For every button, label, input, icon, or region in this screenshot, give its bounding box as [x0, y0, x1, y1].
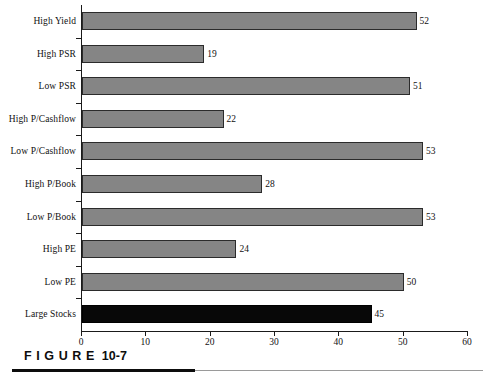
bar-value-label: 22 [227, 114, 237, 124]
bar-row: Low P/Cashflow53 [0, 135, 483, 167]
bar-row: High PE24 [0, 233, 483, 265]
x-axis-tick-label: 0 [79, 337, 84, 347]
category-label: Low PE [0, 277, 76, 287]
category-label: Large Stocks [0, 309, 76, 319]
caption-rule-thick [12, 369, 195, 372]
category-label: High P/Book [0, 179, 76, 189]
y-axis-tick [76, 70, 82, 71]
bar-row: Low PSR51 [0, 70, 483, 102]
bar-value-label: 52 [420, 16, 430, 26]
category-label: Low P/Cashflow [0, 146, 76, 156]
y-axis-tick [76, 233, 82, 234]
bar-value-label: 53 [426, 212, 436, 222]
bar [82, 208, 423, 226]
x-axis-tick [467, 331, 468, 336]
category-label: High Yield [0, 16, 76, 26]
figure-caption-text: FIGURE10-7 [24, 349, 127, 363]
y-axis-tick [76, 201, 82, 202]
bar [82, 110, 224, 128]
caption-rule-thin [195, 370, 483, 371]
y-axis-tick [76, 168, 82, 169]
bar [82, 240, 236, 258]
bar-value-label: 45 [375, 309, 385, 319]
bar-row: High P/Book28 [0, 168, 483, 200]
x-axis-tick-label: 30 [269, 337, 279, 347]
bar-value-label: 51 [413, 81, 423, 91]
bar-row: Low PE50 [0, 266, 483, 298]
x-axis-tick [145, 331, 146, 336]
bar-value-label: 28 [265, 179, 275, 189]
bar-value-label: 19 [207, 49, 217, 59]
x-axis-tick-label: 40 [334, 337, 344, 347]
category-label: High P/Cashflow [0, 114, 76, 124]
figure-caption: FIGURE10-7 [0, 349, 483, 379]
bar-chart: High Yield52High PSR19Low PSR51High P/Ca… [0, 0, 483, 345]
x-axis-tick-label: 20 [205, 337, 215, 347]
bar [82, 305, 372, 323]
bar-row: High Yield52 [0, 5, 483, 37]
bar-value-label: 24 [239, 244, 249, 254]
bar [82, 273, 404, 291]
x-axis-tick [338, 331, 339, 336]
y-axis-tick [76, 103, 82, 104]
category-label: Low P/Book [0, 212, 76, 222]
bar-row: High P/Cashflow22 [0, 103, 483, 135]
bar-value-label: 50 [407, 277, 417, 287]
y-axis-tick [76, 135, 82, 136]
bar-row: Low P/Book53 [0, 201, 483, 233]
category-label: High PE [0, 244, 76, 254]
y-axis-tick [76, 38, 82, 39]
bar-row: Large Stocks45 [0, 298, 483, 330]
bar [82, 12, 417, 30]
x-axis-tick-label: 10 [141, 337, 151, 347]
bar [82, 77, 410, 95]
bar [82, 142, 423, 160]
figure-caption-number: 10-7 [102, 349, 127, 363]
x-axis-tick [81, 331, 82, 336]
y-axis-tick [76, 266, 82, 267]
bar [82, 45, 204, 63]
category-label: High PSR [0, 49, 76, 59]
x-axis-tick [403, 331, 404, 336]
x-axis-tick-label: 60 [462, 337, 472, 347]
bar [82, 175, 262, 193]
figure-caption-word: FIGURE [24, 349, 99, 363]
x-axis-tick [274, 331, 275, 336]
category-label: Low PSR [0, 81, 76, 91]
plot-area: High Yield52High PSR19Low PSR51High P/Ca… [0, 0, 483, 345]
x-axis-tick [210, 331, 211, 336]
bar-row: High PSR19 [0, 38, 483, 70]
y-axis-tick [76, 298, 82, 299]
x-axis-tick-label: 50 [398, 337, 408, 347]
bar-value-label: 53 [426, 146, 436, 156]
